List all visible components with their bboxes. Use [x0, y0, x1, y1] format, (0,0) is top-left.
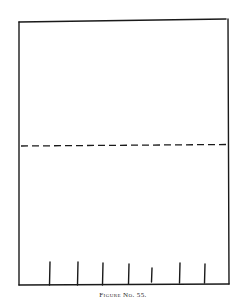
fold-line [21, 145, 228, 147]
rectangle-top-edge [19, 19, 226, 22]
rectangle-outline [19, 19, 229, 285]
tick-mark [50, 262, 51, 285]
tick-mark [103, 263, 104, 285]
rectangle-right-edge [228, 19, 229, 284]
dashed-fold-line [21, 145, 228, 147]
figure-caption: Figure No. 55. [0, 291, 246, 299]
tick-mark [129, 264, 130, 284]
figure-diagram [0, 0, 246, 307]
tick-mark [180, 263, 181, 283]
tick-mark [205, 264, 206, 283]
tick-mark [78, 262, 79, 285]
rectangle-bottom-edge [19, 284, 229, 285]
tick-marks [50, 262, 206, 285]
tick-mark [152, 268, 153, 282]
